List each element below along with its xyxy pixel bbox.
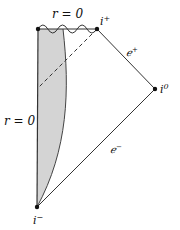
singularity-left-dot [36, 27, 40, 31]
i-zero-dot [153, 87, 157, 91]
axis-label: r = 0 [4, 114, 35, 128]
i-minus-dot [35, 205, 39, 209]
i-plus-label: i+ [100, 14, 110, 28]
star-interior-region [37, 29, 66, 207]
scri-plus-label: ℯ+ [126, 46, 138, 58]
i-zero-label: i0 [160, 82, 169, 96]
penrose-diagram: r = 0 r = 0 i+ i0 i− ℯ+ ℯ− [0, 0, 180, 230]
i-minus-label: i− [33, 213, 43, 227]
future-null-infinity-line [97, 29, 155, 89]
i-plus-dot [95, 27, 99, 31]
singularity-label: r = 0 [52, 7, 83, 21]
scri-minus-label: ℯ− [110, 143, 122, 155]
